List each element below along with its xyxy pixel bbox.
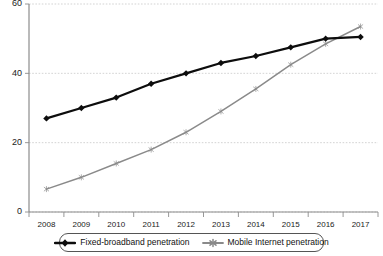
- x-tick-label: 2017: [352, 220, 370, 229]
- x-tick-label: 2016: [317, 220, 335, 229]
- x-tick-label: 2008: [38, 220, 56, 229]
- x-tick-label: 2012: [177, 220, 195, 229]
- data-point-marker: [253, 53, 259, 59]
- data-point-marker: [113, 94, 119, 100]
- chart-legend: Fixed-broadband penetration Mobile Inter…: [59, 233, 324, 252]
- y-axis: [25, 4, 29, 212]
- line-chart: 0204060 20082009201020112012201320142015…: [0, 0, 383, 256]
- legend-label-fixed-broadband: Fixed-broadband penetration: [80, 238, 189, 247]
- data-point-marker: [218, 108, 223, 114]
- legend-marker-diamond-icon: [54, 238, 76, 248]
- x-tick-labels: 2008200920102011201220132014201520162017: [38, 220, 370, 229]
- data-point-marker: [358, 24, 363, 30]
- series-line: [46, 27, 360, 190]
- chart-title-clipped: [0, 0, 383, 4]
- y-tick-labels: 0204060: [12, 0, 22, 216]
- data-point-marker: [218, 60, 224, 66]
- data-point-marker: [43, 115, 49, 121]
- x-tick-label: 2013: [212, 220, 230, 229]
- data-point-marker: [288, 44, 294, 50]
- x-tick-label: 2009: [72, 220, 90, 229]
- data-point-marker: [183, 70, 189, 76]
- data-point-marker: [357, 34, 363, 40]
- x-axis: [29, 212, 378, 217]
- chart-plot-area: 0204060 20082009201020112012201320142015…: [0, 0, 383, 232]
- data-point-marker: [148, 81, 154, 87]
- data-point-marker: [184, 129, 189, 135]
- series-line: [46, 37, 360, 118]
- legend-label-mobile-internet: Mobile Internet penetration: [228, 238, 329, 247]
- x-tick-label: 2011: [143, 220, 161, 229]
- series-mobile-internet-penetration: [44, 24, 363, 193]
- series-fixed-broadband-penetration: [43, 34, 364, 122]
- data-point-marker: [78, 105, 84, 111]
- data-point-marker: [322, 35, 328, 41]
- x-tick-label: 2014: [247, 220, 265, 229]
- y-tick-label: 0: [17, 206, 22, 216]
- x-tick-label: 2010: [107, 220, 125, 229]
- legend-entry-mobile-internet[interactable]: Mobile Internet penetration: [202, 238, 329, 248]
- x-tick-label: 2015: [282, 220, 300, 229]
- legend-entry-fixed-broadband[interactable]: Fixed-broadband penetration: [54, 238, 189, 248]
- y-tick-label: 40: [12, 68, 22, 78]
- y-tick-label: 20: [12, 137, 22, 147]
- legend-marker-star-icon: [202, 238, 224, 248]
